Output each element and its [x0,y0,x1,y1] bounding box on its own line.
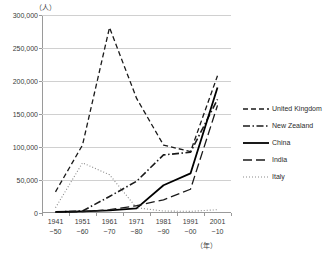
legend-label: New Zealand [272,121,313,130]
x-tick-label: 1971~80 [129,217,145,236]
y-tick-label: 150,000 [13,111,42,118]
legend-item-india[interactable]: India [243,151,323,168]
legend-swatch-united-kingdom-icon [243,104,269,114]
legend-item-new-zealand[interactable]: New Zealand [243,117,323,134]
legend-swatch-china-icon [243,138,269,148]
y-tick-label: 200,000 [13,78,42,85]
x-tick-label: 2001~10 [210,217,226,236]
legend-item-united-kingdom[interactable]: United Kingdom [243,100,323,117]
y-tick-label: 300,000 [13,12,42,19]
plot-area: 050,000100,000150,000200,000250,000300,0… [42,15,231,213]
y-tick-label: 100,000 [13,144,42,151]
legend-label: United Kingdom [272,104,322,113]
legend-swatch-new-zealand-icon [243,121,269,131]
x-tick-label: 1981~90 [156,217,172,236]
chart-legend: United KingdomNew ZealandChinaIndiaItaly [243,100,323,185]
x-tick-mark [231,213,232,216]
x-tick-mark [150,213,151,216]
legend-item-china[interactable]: China [243,134,323,151]
line-chart: （人） 050,000100,000150,000200,000250,0003… [0,0,324,255]
series-lines [42,15,231,213]
series-line-india [56,105,218,212]
series-line-new-zealand [56,99,218,212]
x-tick-label: 1961~70 [102,217,118,236]
x-tick-mark [96,213,97,216]
x-axis-unit-label: （年） [196,240,217,250]
legend-label: Italy [272,172,285,181]
x-tick-mark [42,213,43,216]
x-tick-mark [69,213,70,216]
x-tick-mark [204,213,205,216]
x-tick-label: 1951~60 [75,217,91,236]
y-tick-label: 0 [34,210,42,217]
x-tick-mark [177,213,178,216]
y-tick-label: 50,000 [17,177,42,184]
legend-label: India [272,155,287,164]
legend-swatch-india-icon [243,155,269,165]
y-tick-label: 250,000 [13,45,42,52]
series-line-italy [56,163,218,212]
legend-item-italy[interactable]: Italy [243,168,323,185]
x-tick-label: 1941~50 [48,217,64,236]
y-axis-unit-label: （人） [35,2,56,12]
legend-label: China [272,138,290,147]
legend-swatch-italy-icon [243,172,269,182]
x-tick-label: 1991~00 [183,217,199,236]
x-tick-mark [123,213,124,216]
